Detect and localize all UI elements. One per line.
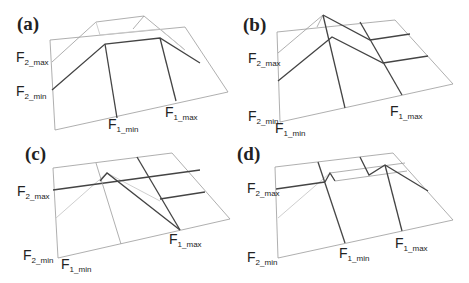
- f1-max-label: F1_max: [395, 235, 428, 253]
- f1-min-line: [323, 15, 345, 108]
- base-plane: [53, 153, 230, 258]
- f1-min-label: F1_min: [339, 245, 369, 263]
- f1-min-label: F1_min: [108, 116, 138, 134]
- f2-max-label: F2_max: [17, 183, 50, 201]
- panel-d: (d) F2_max F2_min F1_min F1_max: [235, 141, 469, 282]
- membership-profile-right: [360, 157, 428, 191]
- f1-max-line: [160, 38, 176, 101]
- panel-c: (c) F2_max F2_min F1_min F1_max: [0, 141, 235, 282]
- f2-max-label: F2_max: [247, 180, 280, 198]
- membership-profile: [278, 37, 428, 81]
- f1-max-line: [385, 165, 402, 231]
- membership-profile-left: [325, 173, 335, 182]
- membership-profile: [52, 38, 200, 90]
- f2-min-label: F2_min: [23, 247, 53, 265]
- f1-min-line: [105, 44, 117, 118]
- panel-label: (c): [25, 143, 46, 165]
- f2-max-line: [53, 170, 200, 190]
- f1-min-label: F1_min: [275, 120, 305, 138]
- f1-min-label: F1_min: [61, 256, 91, 274]
- base-plane: [50, 27, 228, 130]
- base-plane: [277, 20, 453, 122]
- f2-max-line: [276, 182, 325, 189]
- panel-label: (d): [237, 143, 260, 165]
- panel-label: (b): [243, 14, 266, 36]
- f1-max-line: [360, 22, 402, 95]
- f1-max-label: F1_max: [169, 231, 202, 249]
- f1-min-line: [96, 163, 121, 244]
- f1-max-line: [137, 157, 180, 230]
- f1-max-label: F1_max: [390, 103, 423, 121]
- f2-min-label: F2_min: [16, 83, 46, 101]
- f2-min-label: F2_min: [247, 249, 277, 267]
- panel-b: (b) F2_max F2_min F1_min F1_max: [235, 0, 469, 141]
- panel-a: (a) F2_max F2_min F1_min F1_max: [0, 0, 235, 141]
- f1-max-label: F1_max: [165, 104, 198, 122]
- upper-ridge: [52, 16, 185, 62]
- f1-min-line: [318, 162, 345, 243]
- panel-label: (a): [17, 13, 39, 35]
- f2-max-label: F2_max: [16, 49, 49, 67]
- f2-max-label: F2_max: [248, 50, 281, 68]
- f2-min-label: F2_min: [248, 108, 278, 126]
